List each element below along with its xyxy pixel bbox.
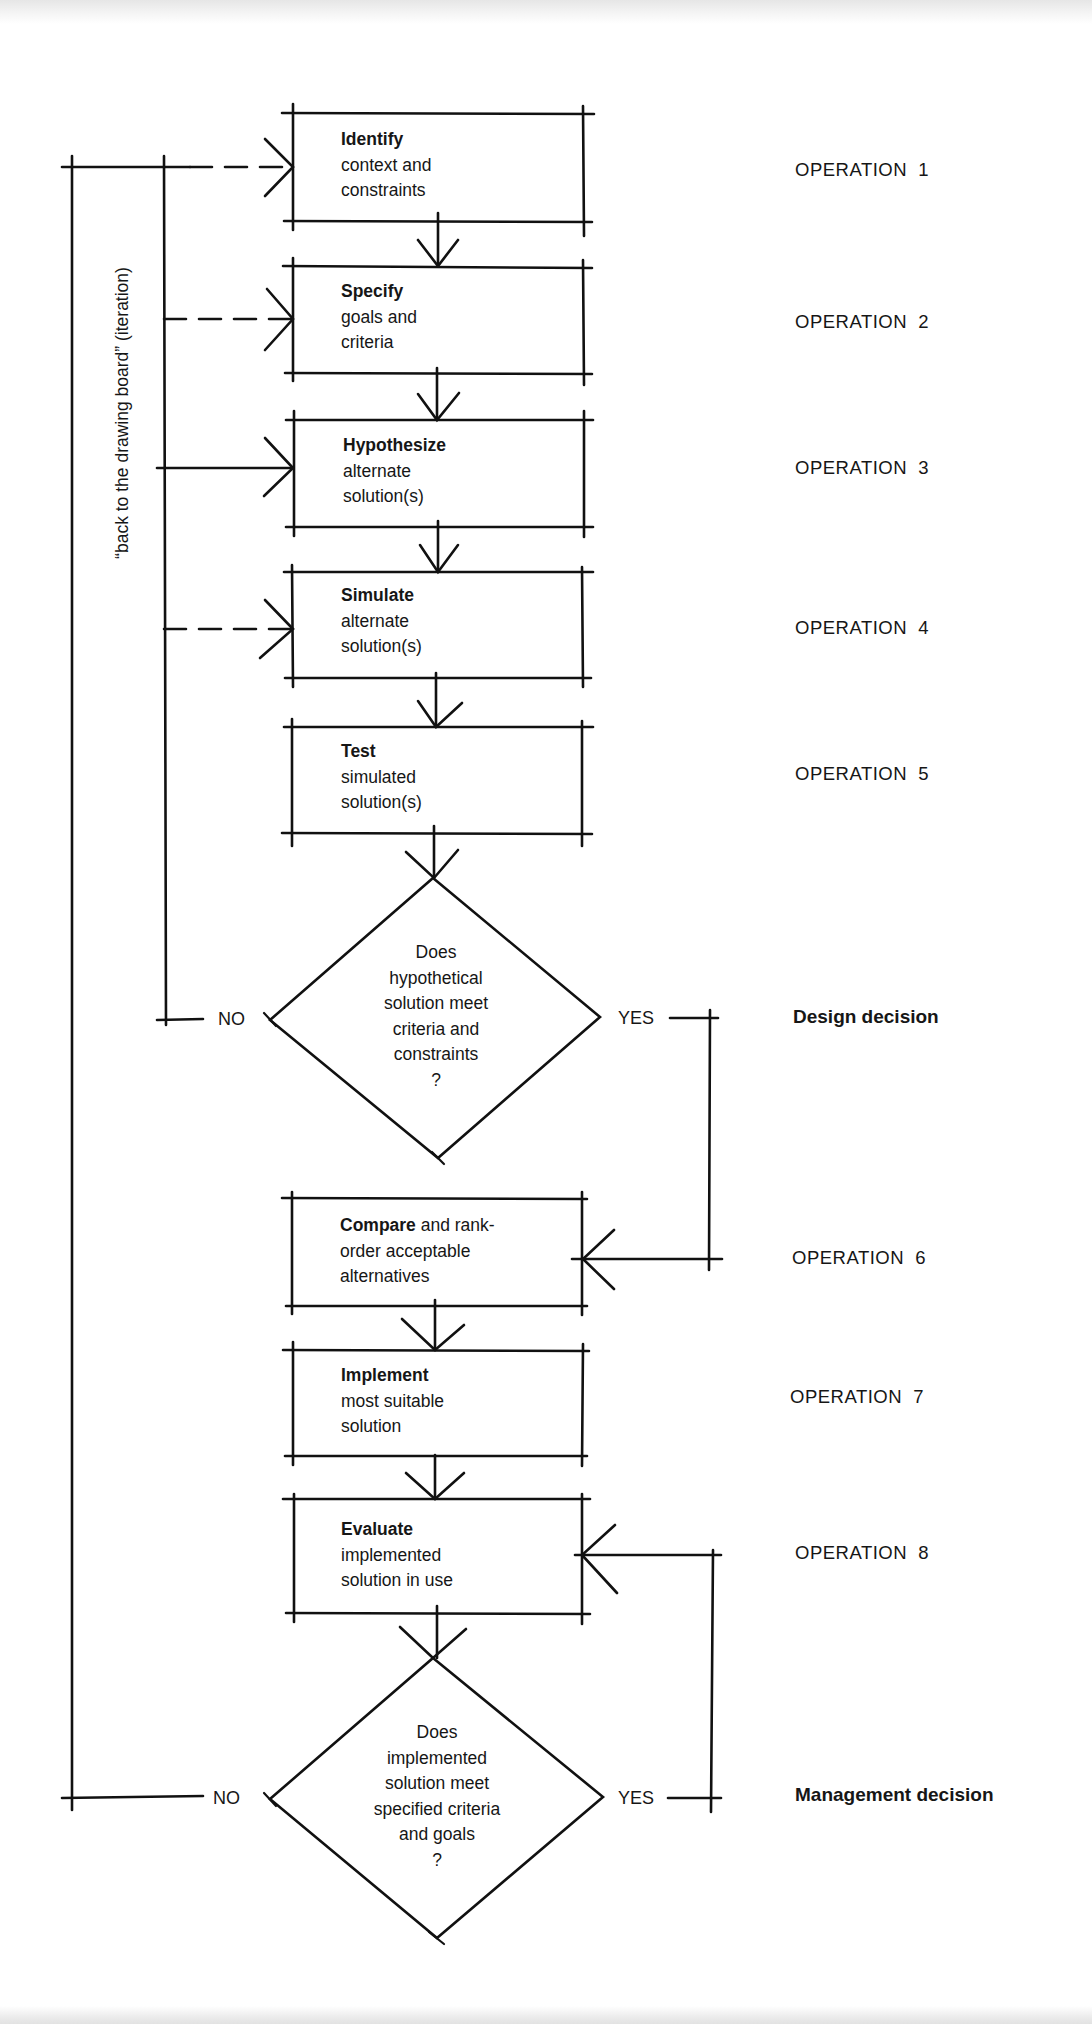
box-title: Test [341, 739, 422, 765]
question-line: ? [326, 1068, 546, 1094]
box-title: Implement [341, 1363, 444, 1389]
box-test-frame [282, 719, 593, 846]
box-title: Evaluate [341, 1517, 453, 1543]
decision-management-no-label: NO [213, 1788, 240, 1809]
iteration-loop [62, 139, 293, 1810]
box-simulate-frame [284, 565, 593, 687]
box-line: solution(s) [341, 790, 422, 816]
box-line: most suitable [341, 1389, 444, 1415]
question-line: Does [327, 1720, 547, 1746]
box-line: alternatives [340, 1264, 495, 1290]
question-line: Does [326, 940, 546, 966]
box-line: solution [341, 1414, 444, 1440]
question-line: hypothetical [326, 966, 546, 992]
question-line: solution meet [327, 1771, 547, 1797]
management-yes-path [575, 1525, 721, 1812]
operation-label-6: OPERATION 6 [792, 1247, 926, 1269]
box-title-suffix: and rank- [416, 1215, 495, 1235]
box-line: alternate [343, 459, 446, 485]
box-specify-frame [283, 258, 592, 385]
operation-label-4: OPERATION 4 [795, 617, 929, 639]
box-line: solution(s) [343, 484, 446, 510]
box-first-line: Compare and rank- [340, 1213, 495, 1239]
box-title: Hypothesize [343, 433, 446, 459]
management-decision-label: Management decision [795, 1784, 994, 1806]
question-line: ? [327, 1848, 547, 1874]
box-title: Specify [341, 279, 417, 305]
box-line: constraints [341, 178, 431, 204]
box-line: criteria [341, 330, 417, 356]
question-line: and goals [327, 1822, 547, 1848]
question-line: criteria and [326, 1017, 546, 1043]
decision-management-yes-label: YES [618, 1788, 654, 1809]
question-line: implemented [327, 1746, 547, 1772]
design-decision-label: Design decision [793, 1006, 939, 1028]
box-test: Test simulated solution(s) [341, 739, 422, 816]
box-hypothesize: Hypothesize alternate solution(s) [343, 433, 446, 510]
operation-label-5: OPERATION 5 [795, 763, 929, 785]
box-title: Compare [340, 1215, 416, 1235]
question-line: solution meet [326, 991, 546, 1017]
box-evaluate: Evaluate implemented solution in use [341, 1517, 453, 1594]
operation-label-1: OPERATION 1 [795, 159, 929, 181]
box-line: solution in use [341, 1568, 453, 1594]
decision-management-question: Does implemented solution meet specified… [327, 1720, 547, 1873]
decision-design-question: Does hypothetical solution meet criteria… [326, 940, 546, 1093]
box-implement: Implement most suitable solution [341, 1363, 444, 1440]
decision-design-yes-label: YES [618, 1008, 654, 1029]
operation-label-3: OPERATION 3 [795, 457, 929, 479]
box-specify: Specify goals and criteria [341, 279, 417, 356]
box-line: alternate [341, 609, 422, 635]
question-line: specified criteria [327, 1797, 547, 1823]
operation-label-2: OPERATION 2 [795, 311, 929, 333]
decision-design-no-label: NO [218, 1009, 245, 1030]
iteration-label: “back to the drawing board” (iteration) [112, 267, 133, 559]
question-line: constraints [326, 1042, 546, 1068]
box-title: Simulate [341, 583, 422, 609]
box-line: context and [341, 153, 431, 179]
box-compare: Compare and rank- order acceptable alter… [340, 1213, 495, 1290]
operation-label-8: OPERATION 8 [795, 1542, 929, 1564]
box-identify: Identify context and constraints [341, 127, 431, 204]
box-simulate: Simulate alternate solution(s) [341, 583, 422, 660]
box-line: implemented [341, 1543, 453, 1569]
box-line: solution(s) [341, 634, 422, 660]
box-line: order acceptable [340, 1239, 495, 1265]
box-line: goals and [341, 305, 417, 331]
box-title: Identify [341, 127, 431, 153]
box-line: simulated [341, 765, 422, 791]
design-yes-path [572, 1010, 722, 1289]
operation-label-7: OPERATION 7 [790, 1386, 924, 1408]
down-arrows [400, 213, 466, 1658]
